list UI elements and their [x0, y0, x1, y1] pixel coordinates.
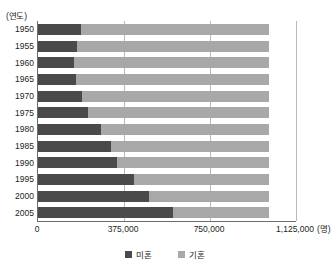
x-axis-tick-1: 375,000: [108, 224, 139, 235]
legend-swatch-icon: [125, 251, 132, 258]
bar-segment: [38, 157, 117, 168]
bar-segment: [134, 174, 269, 185]
bar-segment: [38, 41, 77, 52]
bar-segment: [173, 207, 269, 218]
bar-row: [38, 157, 296, 168]
bar-segment: [38, 207, 173, 218]
bar-segment: [38, 74, 76, 85]
bar-row: [38, 124, 296, 135]
y-axis-tick-1960: 1960: [0, 58, 34, 68]
y-axis-unit-label: (연도): [6, 9, 27, 21]
bar-row: [38, 207, 296, 218]
y-axis-tick-2005: 2005: [0, 208, 34, 218]
y-axis-tick-1950: 1950: [0, 24, 34, 34]
bar-segment: [38, 174, 134, 185]
bar-segment: [38, 191, 149, 202]
y-axis-tick-1975: 1975: [0, 108, 34, 118]
bar-segment: [117, 157, 269, 168]
x-axis-tick-labels: 0375,000750,0001,125,000(명): [0, 224, 330, 238]
bar-segment: [76, 74, 269, 85]
y-axis-tick-1995: 1995: [0, 174, 34, 184]
bar-segment: [38, 124, 101, 135]
x-axis-tick-3: 1,125,000: [276, 224, 314, 235]
bar-segment: [38, 107, 88, 118]
bar-segment: [149, 191, 269, 202]
bar-row: [38, 191, 296, 202]
legend-item-미혼[interactable]: 미혼: [125, 248, 152, 260]
plot-area: [37, 21, 296, 222]
bar-row: [38, 74, 296, 85]
legend-item-기혼[interactable]: 기혼: [178, 248, 205, 260]
bar-segment: [101, 124, 269, 135]
x-axis-tick-0: 0: [35, 224, 40, 235]
y-axis-tick-1980: 1980: [0, 124, 34, 134]
legend-swatch-icon: [178, 251, 185, 258]
y-axis-tick-1970: 1970: [0, 91, 34, 101]
bar-segment: [88, 107, 269, 118]
chart-legend: 미혼기혼: [0, 248, 330, 260]
bar-segment: [81, 24, 269, 35]
bar-segment: [111, 141, 269, 152]
bar-row: [38, 174, 296, 185]
bar-segment: [74, 57, 269, 68]
bar-row: [38, 57, 296, 68]
y-axis-tick-1990: 1990: [0, 158, 34, 168]
bar-segment: [38, 141, 111, 152]
gridline: [296, 21, 297, 221]
bar-segment: [38, 91, 82, 102]
bar-row: [38, 141, 296, 152]
bar-row: [38, 24, 296, 35]
y-axis-tick-2000: 2000: [0, 191, 34, 201]
bar-row: [38, 107, 296, 118]
legend-label: 기혼: [189, 248, 205, 260]
bar-row: [38, 41, 296, 52]
x-axis-unit-label: (명): [317, 224, 331, 235]
y-axis-tick-labels: 1950195519601965197019751980198519901995…: [0, 21, 34, 221]
legend-label: 미혼: [136, 248, 152, 260]
y-axis-tick-1985: 1985: [0, 141, 34, 151]
bar-row: [38, 91, 296, 102]
bar-segment: [38, 24, 81, 35]
y-axis-tick-1965: 1965: [0, 74, 34, 84]
bar-segment: [38, 57, 74, 68]
x-axis-tick-2: 750,000: [194, 224, 225, 235]
bar-segment: [82, 91, 269, 102]
bar-segment: [77, 41, 269, 52]
y-axis-tick-1955: 1955: [0, 41, 34, 51]
